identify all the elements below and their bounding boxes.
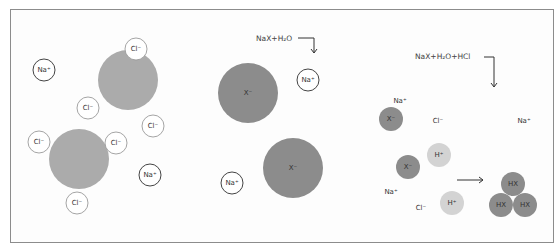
chloride-ion: Cl⁻ bbox=[77, 97, 99, 119]
chloride-ion: Cl⁻ bbox=[105, 132, 127, 154]
ion-label: Cl⁻ bbox=[131, 45, 142, 53]
chloride-ion-label: Cl⁻ bbox=[433, 117, 444, 125]
x-anion: X⁻ bbox=[379, 107, 403, 131]
ion-label: HX bbox=[508, 180, 518, 188]
chloride-ion: Cl⁻ bbox=[142, 115, 164, 137]
ion-label: X⁻ bbox=[404, 163, 413, 171]
sodium-ion: Na⁺ bbox=[221, 172, 243, 194]
x-anion-sphere: X⁻ bbox=[218, 63, 278, 123]
hx-molecule: HX bbox=[501, 172, 525, 196]
proton: H⁺ bbox=[440, 191, 464, 215]
ion-label: Cl⁻ bbox=[34, 138, 45, 146]
equation-nax-h2o: NaX+H₂O bbox=[256, 34, 292, 43]
large-anion-sphere bbox=[49, 129, 109, 189]
sodium-ion: Na⁺ bbox=[139, 164, 161, 186]
ion-label: Cl⁻ bbox=[72, 199, 83, 207]
ion-label: HX bbox=[496, 201, 506, 209]
sodium-ion-label: Na⁺ bbox=[384, 188, 398, 196]
large-anion-sphere bbox=[98, 50, 158, 110]
sodium-ion: Na⁺ bbox=[33, 59, 55, 81]
ion-label: Na⁺ bbox=[37, 66, 51, 74]
panel-nax-in-water: NaX+H₂O X⁻X⁻Na⁺Na⁺ bbox=[218, 34, 323, 198]
ion-label: X⁻ bbox=[244, 89, 253, 97]
chloride-ion: Cl⁻ bbox=[125, 38, 147, 60]
arrow-down-icon bbox=[484, 57, 494, 87]
proton: H⁺ bbox=[427, 143, 451, 167]
ion-label: Na⁺ bbox=[143, 171, 157, 179]
x-anion: X⁻ bbox=[396, 155, 420, 179]
chloride-ion: Cl⁻ bbox=[66, 192, 88, 214]
ion-label: H⁺ bbox=[448, 199, 457, 207]
hx-molecule: HX bbox=[489, 193, 513, 217]
sodium-ion-label: Na⁺ bbox=[517, 117, 531, 125]
ion-label: HX bbox=[520, 201, 530, 209]
ion-label: X⁻ bbox=[289, 164, 298, 172]
ion-label: Na⁺ bbox=[225, 179, 239, 187]
ion-label: Na⁺ bbox=[301, 76, 315, 84]
panel-nacl-solution: Na⁺Cl⁻Cl⁻Cl⁻Cl⁻Cl⁻Na⁺Cl⁻ bbox=[28, 38, 164, 214]
ion-label: Cl⁻ bbox=[83, 104, 94, 112]
ion-label: X⁻ bbox=[387, 115, 396, 123]
sodium-ion: Na⁺ bbox=[297, 69, 319, 91]
hx-molecule: HX bbox=[513, 193, 537, 217]
x-anion-sphere: X⁻ bbox=[263, 138, 323, 198]
chloride-ion-label: Cl⁻ bbox=[416, 204, 427, 212]
chloride-ion: Cl⁻ bbox=[28, 131, 50, 153]
sodium-ion-label: Na⁺ bbox=[393, 97, 407, 105]
ion-solution-diagram: Na⁺Cl⁻Cl⁻Cl⁻Cl⁻Cl⁻Na⁺Cl⁻ NaX+H₂O X⁻X⁻Na⁺… bbox=[0, 0, 560, 250]
panel-nax-water-hcl: NaX+H₂O+HCl Na⁺Cl⁻Na⁺Na⁺Cl⁻X⁻H⁺X⁻H⁺HXHXH… bbox=[379, 52, 537, 217]
ion-label: Cl⁻ bbox=[111, 139, 122, 147]
ion-label: H⁺ bbox=[435, 151, 444, 159]
arrow-down-icon bbox=[298, 38, 314, 53]
equation-nax-h2o-hcl: NaX+H₂O+HCl bbox=[415, 52, 470, 61]
ion-label: Cl⁻ bbox=[148, 122, 159, 130]
